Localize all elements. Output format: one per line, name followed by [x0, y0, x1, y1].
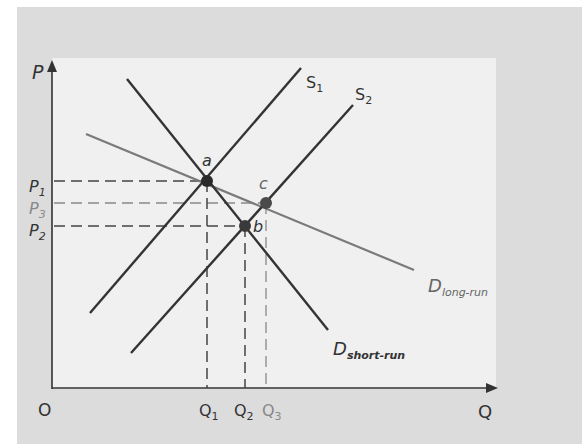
origin-label: O — [38, 400, 51, 420]
point-b — [239, 220, 251, 232]
point-c — [260, 197, 272, 209]
quantity-labels: Q1 Q2 Q3 — [199, 401, 282, 423]
point-b-label: b — [253, 217, 263, 236]
demand-long-run-curve — [86, 134, 414, 270]
y-axis-arrow-icon — [47, 60, 57, 72]
y-axis-label: P — [32, 61, 44, 83]
demand-short-run-curve — [127, 79, 328, 330]
point-a — [201, 175, 213, 187]
supply-2-label: S2 — [355, 85, 372, 107]
p2-label: P2 — [29, 221, 46, 243]
q1-label: Q1 — [199, 401, 219, 423]
point-a-label: a — [202, 151, 212, 170]
supply-1-label: S1 — [306, 73, 323, 95]
price-labels: P1 P3 P2 — [29, 177, 46, 243]
demand-short-run-label: Dshort-run — [333, 338, 405, 362]
x-axis-arrow-icon — [486, 383, 498, 393]
demand-long-run-label: Dlong-run — [428, 275, 488, 299]
q3-label: Q3 — [262, 401, 282, 423]
q2-label: Q2 — [234, 401, 254, 423]
p1-label: P1 — [29, 177, 46, 199]
p3-label: P3 — [29, 199, 46, 221]
point-c-label: c — [259, 174, 268, 193]
x-axis-label: Q — [478, 401, 492, 422]
supply-demand-diagram: a b c P Q O P1 P3 P2 Q1 Q2 Q3 S1 S2 Dsho… — [0, 0, 582, 444]
supply-1-curve — [90, 68, 301, 313]
